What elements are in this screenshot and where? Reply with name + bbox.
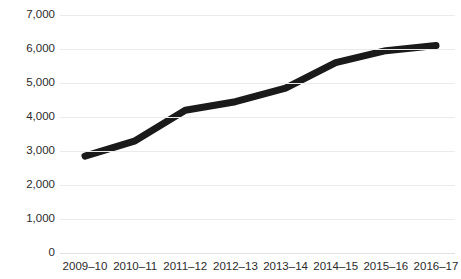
plot-area xyxy=(60,0,455,253)
gridline xyxy=(60,219,455,220)
y-axis-tick-label: 1,000 xyxy=(3,213,55,225)
y-axis-tick-label: 7,000 xyxy=(3,9,55,21)
gridline xyxy=(60,117,455,118)
y-axis-tick-label: 2,000 xyxy=(3,179,55,191)
series-line-chart-svg xyxy=(60,0,455,253)
y-axis: 01,0002,0003,0004,0005,0006,0007,000 xyxy=(0,0,55,253)
gridline xyxy=(60,49,455,50)
gridline xyxy=(60,83,455,84)
x-axis-tick-label: 2012–13 xyxy=(213,258,258,274)
x-axis-tick-label: 2010–11 xyxy=(113,258,157,274)
gridline xyxy=(60,151,455,152)
y-axis-tick-label: 4,000 xyxy=(3,111,55,123)
x-axis-tick-label: 2015–16 xyxy=(363,258,408,274)
x-axis-tick-label: 2014–15 xyxy=(313,258,358,274)
x-axis: 2009–102010–112011–122012–132013–142014–… xyxy=(0,258,461,279)
gridline xyxy=(60,185,455,186)
x-axis-tick-label: 2009–10 xyxy=(63,258,108,274)
gridline xyxy=(60,15,455,16)
gridline xyxy=(60,253,455,254)
x-axis-tick-label: 2011–12 xyxy=(163,258,207,274)
y-axis-tick-label: 6,000 xyxy=(3,43,55,55)
y-axis-tick-label: 5,000 xyxy=(3,77,55,89)
line-chart: 8,000 01,0002,0003,0004,0005,0006,0007,0… xyxy=(0,0,461,279)
x-axis-tick-label: 2016–17 xyxy=(414,258,459,274)
x-axis-tick-label: 2013–14 xyxy=(263,258,308,274)
series-line xyxy=(85,46,436,157)
y-axis-tick-label: 3,000 xyxy=(3,145,55,157)
